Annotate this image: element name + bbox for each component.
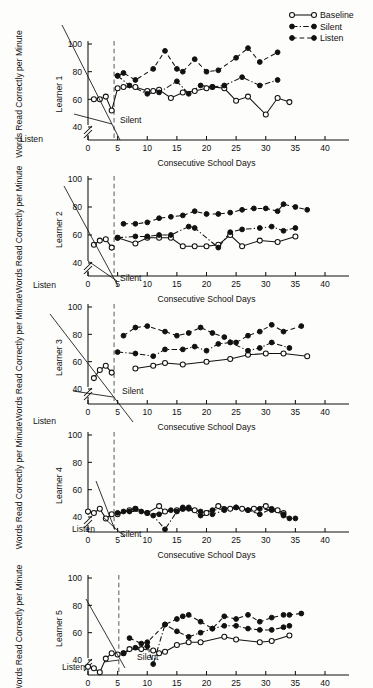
- data-point-silent: [240, 75, 245, 80]
- data-point-baseline: [109, 108, 114, 113]
- panel-label-learner: Learner 1: [54, 75, 64, 112]
- data-point-silent: [127, 83, 132, 88]
- data-point-baseline: [192, 244, 197, 249]
- data-point-baseline: [97, 506, 102, 511]
- data-point-silent: [216, 245, 221, 250]
- data-point-baseline: [246, 94, 251, 99]
- series-line-listen: [118, 48, 278, 80]
- data-point-listen: [210, 331, 215, 336]
- data-point-listen: [163, 49, 168, 54]
- panel-label-learner: Learner 3: [54, 339, 64, 376]
- leader-line-listen: [62, 25, 120, 140]
- y-axis-title: Words Read Correctly per Minute: [14, 166, 24, 294]
- data-point-baseline: [234, 98, 239, 103]
- data-point-silent: [121, 651, 126, 656]
- y-tick-label: 100: [68, 174, 83, 184]
- data-point-baseline: [263, 504, 268, 509]
- chart-4: 4060801000510152025303540ListenSilentWor…: [0, 404, 373, 534]
- y-tick-label: 100: [68, 430, 83, 440]
- y-tick-label: 80: [72, 67, 82, 77]
- panel-label-learner: Learner 5: [54, 610, 64, 647]
- data-point-silent: [186, 224, 191, 229]
- data-point-baseline: [109, 370, 114, 375]
- data-point-baseline: [157, 504, 162, 509]
- data-point-baseline: [127, 647, 132, 652]
- data-point-listen: [281, 613, 286, 618]
- data-point-silent: [127, 509, 132, 514]
- y-tick-label: 80: [72, 330, 82, 340]
- y-tick-label: 100: [68, 302, 83, 312]
- data-point-listen: [222, 614, 227, 619]
- data-point-silent: [222, 83, 227, 88]
- data-point-baseline: [204, 510, 209, 515]
- data-point-listen: [269, 322, 274, 327]
- data-point-baseline: [240, 506, 245, 511]
- data-point-baseline: [204, 86, 209, 91]
- data-point-baseline: [287, 100, 292, 105]
- data-point-silent: [240, 227, 245, 232]
- data-point-listen: [121, 71, 126, 76]
- y-axis-title: Words Read Correctly per Minute: [14, 30, 24, 158]
- data-point-baseline: [97, 367, 102, 372]
- y-axis-title: Words Read Correctly per Minute: [14, 422, 24, 550]
- data-point-listen: [287, 613, 292, 618]
- legend-label-listen: Listen: [320, 33, 344, 43]
- data-point-baseline: [222, 634, 227, 639]
- data-point-baseline: [204, 244, 209, 249]
- panel-label-learner: Learner 2: [54, 211, 64, 248]
- data-point-silent: [269, 340, 274, 345]
- data-point-silent: [287, 623, 292, 628]
- data-point-silent: [151, 354, 156, 359]
- data-point-baseline: [275, 96, 280, 101]
- data-point-baseline: [192, 89, 197, 94]
- annotation-listen: Listen: [62, 662, 85, 672]
- data-point-listen: [234, 55, 239, 60]
- y-tick-label: 40: [72, 258, 82, 268]
- y-tick-label: 100: [68, 573, 83, 583]
- legend-marker-silent: [290, 24, 295, 29]
- data-point-listen: [175, 617, 180, 622]
- data-point-baseline: [109, 651, 114, 656]
- figure-root: 4060801000510152025303540ListenSilentWor…: [0, 0, 373, 688]
- legend-marker-baseline: [290, 13, 295, 18]
- data-point-baseline: [305, 354, 310, 359]
- data-point-silent: [198, 83, 203, 88]
- panel-learner-1: 4060801000510152025303540ListenSilentWor…: [0, 0, 373, 150]
- panel-learner-4: 4060801000510152025303540ListenSilentWor…: [0, 404, 373, 534]
- data-point-silent: [257, 512, 262, 517]
- data-point-baseline: [180, 90, 185, 95]
- data-point-listen: [234, 505, 239, 510]
- data-point-listen: [198, 325, 203, 330]
- data-point-listen: [139, 641, 144, 646]
- data-point-listen: [186, 505, 191, 510]
- data-point-baseline: [275, 240, 280, 245]
- data-point-silent: [287, 516, 292, 521]
- data-point-baseline: [240, 244, 245, 249]
- data-point-listen: [216, 68, 221, 73]
- panel-learner-3: 4060801000510152025303540ListenSilentWor…: [0, 276, 373, 406]
- x-tick-label: 0: [86, 678, 91, 688]
- panel-learner-2: 4060801000510152025303540ListenSilentWor…: [0, 148, 373, 278]
- data-point-silent: [234, 623, 239, 628]
- data-point-listen: [180, 614, 185, 619]
- data-point-listen: [192, 57, 197, 62]
- data-point-listen: [246, 46, 251, 51]
- data-point-listen: [234, 340, 239, 345]
- data-point-baseline: [287, 633, 292, 638]
- data-point-silent: [186, 91, 191, 96]
- data-point-baseline: [180, 362, 185, 367]
- data-point-listen: [222, 506, 227, 511]
- data-point-baseline: [281, 351, 286, 356]
- data-point-baseline: [228, 506, 233, 511]
- data-point-silent: [163, 527, 168, 532]
- data-point-listen: [115, 73, 120, 78]
- data-point-baseline: [91, 97, 96, 102]
- data-point-baseline: [151, 363, 156, 368]
- x-tick-label: 20: [202, 678, 212, 688]
- data-point-listen: [121, 333, 126, 338]
- y-tick-label: 60: [72, 485, 82, 495]
- data-point-listen: [175, 333, 180, 338]
- data-point-baseline: [186, 640, 191, 645]
- data-point-listen: [210, 508, 215, 513]
- data-point-baseline: [198, 640, 203, 645]
